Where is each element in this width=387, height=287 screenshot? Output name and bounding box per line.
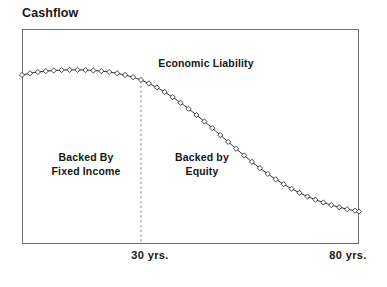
x-axis-tick-30yrs: 30 yrs. [110,249,190,261]
annotation-backed-by-fixed-income-line1: Backed By [32,151,140,165]
annotation-backed-by-fixed-income: Backed By Fixed Income [32,151,140,178]
annotation-backed-by-equity-line2: Equity [156,165,248,179]
annotation-backed-by-equity: Backed by Equity [156,151,248,178]
annotation-economic-liability-text: Economic Liability [158,57,253,69]
x-axis-tick-80yrs: 80 yrs. [308,249,387,261]
annotation-backed-by-fixed-income-line2: Fixed Income [32,165,140,179]
cashflow-chart-figure: Cashflow Economic Liability Backed By Fi… [0,0,387,287]
annotation-backed-by-equity-line1: Backed by [156,151,248,165]
page-title: Cashflow [22,6,78,20]
annotation-economic-liability: Economic Liability [150,57,262,71]
